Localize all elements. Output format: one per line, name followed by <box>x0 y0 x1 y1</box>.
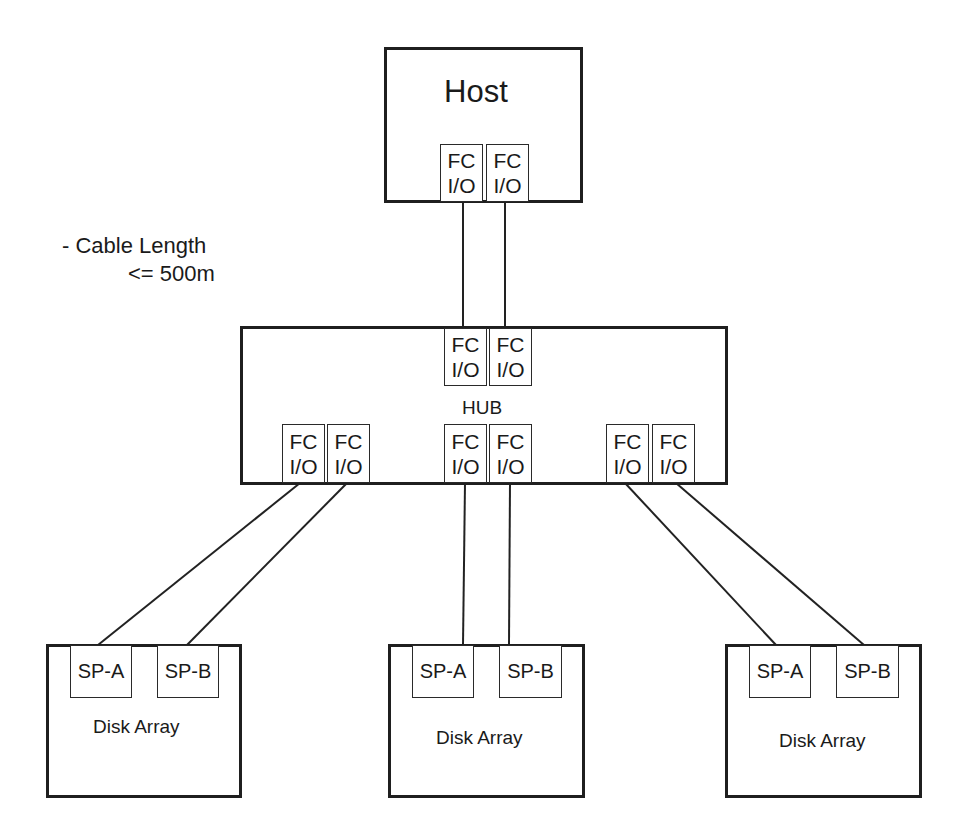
port-label-line1: FC <box>452 429 480 454</box>
hub-downstream-port-6: FC I/O <box>652 424 695 483</box>
host-label: Host <box>444 74 508 110</box>
port-label-line2: I/O <box>451 357 479 382</box>
port-label-line1: FC <box>660 429 688 454</box>
port-label-line2: I/O <box>451 454 479 479</box>
port-label-line1: FC <box>494 148 522 173</box>
port-label-line2: I/O <box>289 454 317 479</box>
port-label-line1: FC <box>448 148 476 173</box>
host-fc-io-port-1: FC I/O <box>440 144 483 202</box>
disk-array-2-sp-b: SP-B <box>499 645 562 698</box>
disk-array-3-label: Disk Array <box>779 730 866 752</box>
disk-array-2-sp-a: SP-A <box>412 645 474 698</box>
cable-hub-array2-spb <box>509 483 510 645</box>
disk-array-1-sp-b: SP-B <box>157 645 219 698</box>
host-node <box>384 47 583 203</box>
cable-hub-array2-spa <box>463 483 465 645</box>
hub-upstream-port-1: FC I/O <box>444 328 487 386</box>
port-label-line1: FC <box>452 332 480 357</box>
disk-array-3-sp-a: SP-A <box>749 645 811 698</box>
cable-length-note-line2: <= 500m <box>62 260 215 288</box>
cable-length-note: - Cable Length <= 500m <box>62 232 215 288</box>
cable-hub-array1-spa <box>98 483 300 645</box>
port-label-line2: I/O <box>447 173 475 198</box>
hub-downstream-port-3: FC I/O <box>444 424 487 483</box>
disk-array-2-label: Disk Array <box>436 727 523 749</box>
port-label-line1: FC <box>614 429 642 454</box>
port-label-line2: I/O <box>659 454 687 479</box>
port-label-line1: FC <box>497 332 525 357</box>
cable-hub-array3-spa <box>625 483 776 645</box>
hub-label: HUB <box>462 397 502 419</box>
hub-downstream-port-5: FC I/O <box>606 424 649 483</box>
disk-array-1-label: Disk Array <box>93 716 180 738</box>
cable-length-note-line1: - Cable Length <box>62 232 215 260</box>
disk-array-1-sp-a: SP-A <box>70 645 132 698</box>
hub-downstream-port-4: FC I/O <box>489 424 532 483</box>
port-label-line1: FC <box>335 429 363 454</box>
disk-array-3-sp-b: SP-B <box>836 645 899 698</box>
port-label-line2: I/O <box>496 454 524 479</box>
port-label-line1: FC <box>290 429 318 454</box>
cable-hub-array3-spb <box>676 483 864 645</box>
port-label-line1: FC <box>497 429 525 454</box>
hub-upstream-port-2: FC I/O <box>489 328 532 386</box>
cable-hub-array1-spb <box>187 483 347 645</box>
hub-downstream-port-1: FC I/O <box>282 424 325 483</box>
port-label-line2: I/O <box>334 454 362 479</box>
port-label-line2: I/O <box>496 357 524 382</box>
host-fc-io-port-2: FC I/O <box>486 144 529 202</box>
hub-downstream-port-2: FC I/O <box>327 424 370 483</box>
port-label-line2: I/O <box>613 454 641 479</box>
port-label-line2: I/O <box>493 173 521 198</box>
